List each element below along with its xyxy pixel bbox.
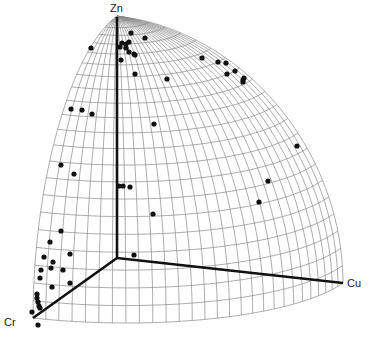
- data-point: [41, 254, 46, 259]
- data-point: [164, 76, 169, 81]
- data-point: [199, 55, 204, 60]
- data-point: [151, 121, 156, 126]
- axes: [33, 17, 343, 318]
- data-point: [50, 259, 55, 264]
- data-point: [127, 184, 132, 189]
- axis-label-zn: Zn: [110, 2, 123, 14]
- data-point: [294, 143, 299, 148]
- data-point: [265, 178, 270, 183]
- data-point: [126, 49, 131, 54]
- data-point: [142, 35, 147, 40]
- data-point: [58, 162, 63, 167]
- data-point: [88, 45, 93, 50]
- data-point: [29, 309, 34, 314]
- grid-line: [50, 133, 298, 165]
- grid-line: [117, 16, 179, 321]
- sphere-octant-plot: [0, 0, 379, 341]
- data-point: [240, 79, 245, 84]
- data-point: [128, 30, 133, 35]
- grid-line: [43, 164, 315, 199]
- data-point: [223, 60, 228, 65]
- axis-label-cr: Cr: [4, 316, 16, 328]
- data-point: [131, 252, 136, 257]
- grid-line: [67, 79, 253, 103]
- data-point: [67, 251, 72, 256]
- data-point: [118, 57, 123, 62]
- grid-line: [117, 16, 205, 319]
- data-point: [132, 71, 137, 76]
- data-point: [79, 107, 84, 112]
- grid-line: [33, 283, 343, 323]
- data-point: [49, 284, 54, 289]
- data-point: [37, 305, 42, 310]
- data-point: [47, 239, 52, 244]
- grid-line: [46, 16, 117, 319]
- data-points: [29, 30, 299, 327]
- data-point: [71, 171, 76, 176]
- data-point: [89, 111, 94, 116]
- grid-line: [117, 16, 192, 321]
- grid-line: [117, 16, 319, 296]
- axis-label-cu: Cu: [347, 277, 361, 289]
- data-point: [48, 265, 53, 270]
- data-point: [126, 39, 131, 44]
- cr-axis: [33, 258, 117, 318]
- data-point: [150, 211, 155, 216]
- grid-line: [99, 16, 117, 323]
- data-point: [117, 44, 122, 49]
- grid-line: [41, 180, 323, 216]
- data-point: [67, 280, 72, 285]
- data-point: [35, 322, 40, 327]
- data-point: [68, 106, 73, 111]
- data-point: [120, 183, 125, 188]
- data-point: [224, 71, 229, 76]
- grid-line: [35, 231, 338, 270]
- grid-line: [117, 16, 326, 293]
- data-point: [37, 275, 42, 280]
- data-point: [256, 199, 261, 204]
- data-point: [215, 59, 220, 64]
- data-point: [132, 52, 137, 57]
- data-point: [38, 267, 43, 272]
- grid-line: [117, 16, 274, 309]
- data-point: [232, 68, 237, 73]
- data-point: [58, 228, 63, 233]
- cu-axis: [117, 258, 343, 283]
- data-point: [60, 267, 65, 272]
- grid-line: [117, 16, 253, 313]
